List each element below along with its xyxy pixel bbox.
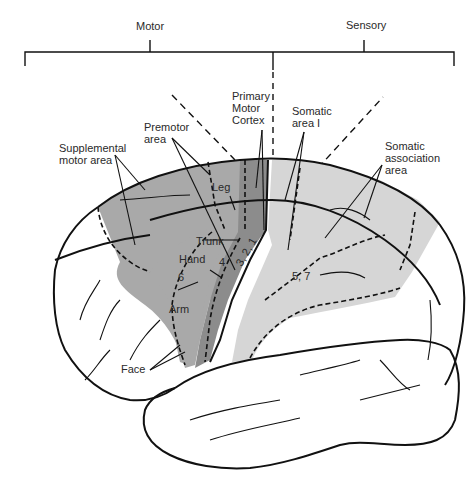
brodmann-5-7-label: 5, 7 <box>292 270 310 282</box>
arm-label: Arm <box>169 303 189 315</box>
primary-motor-cortex-label: Primary Motor Cortex <box>232 90 270 126</box>
motor-sensory-bracket <box>25 40 454 70</box>
brodmann-6-label: 6 <box>178 271 184 283</box>
somatic-association-area-label: Somatic association area <box>385 140 440 176</box>
supplemental-motor-area-label: Supplemental motor area <box>59 142 126 166</box>
sensory-header-label: Sensory <box>346 19 386 31</box>
face-label: Face <box>121 363 145 375</box>
brodmann-4-label: 4 <box>219 256 225 268</box>
motor-sensory-cortex-diagram <box>0 0 473 479</box>
leg-label: Leg <box>212 181 230 193</box>
hand-label: Hand <box>179 253 205 265</box>
trunk-label: Trunk <box>196 235 224 247</box>
somatic-area-1-label: Somatic area I <box>292 105 332 129</box>
motor-header-label: Motor <box>136 20 164 32</box>
premotor-area-label: Premotor area <box>144 121 189 145</box>
